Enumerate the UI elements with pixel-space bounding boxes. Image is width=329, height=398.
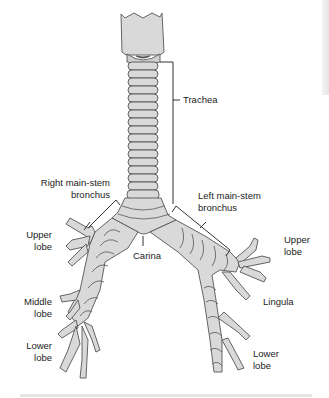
label-left-main-stem-bronchus: Left main-stem bronchus	[198, 190, 261, 213]
label-right-main-stem-bronchus: Right main-stem bronchus	[22, 177, 110, 200]
label-right-middle-lobe: Middle lobe	[14, 296, 52, 319]
label-lingula: Lingula	[263, 296, 294, 308]
trachea-bracket	[160, 62, 173, 204]
label-right-lower-lobe: Lower lobe	[14, 340, 52, 363]
bottom-divider	[20, 394, 312, 397]
larynx-cartilage	[121, 13, 164, 55]
label-left-lower-lobe: Lower lobe	[253, 348, 279, 371]
label-trachea: Trachea	[183, 94, 218, 106]
label-right-upper-lobe: Upper lobe	[14, 229, 52, 252]
tracheal-rings	[127, 62, 159, 199]
label-carina: Carina	[133, 250, 161, 262]
label-left-upper-lobe: Upper lobe	[284, 234, 310, 257]
left-main-stem	[150, 220, 240, 372]
